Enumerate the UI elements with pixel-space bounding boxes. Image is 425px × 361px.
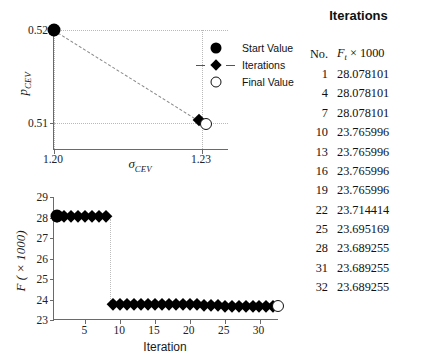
table-row: 3123.689255 (296, 259, 389, 278)
cell-no: 13 (296, 142, 337, 161)
legend-label-iterations: Iterations (242, 57, 285, 74)
cell-no: 7 (296, 104, 337, 123)
cell-value: 23.714414 (337, 200, 389, 219)
bottom-chart-plot-area (53, 197, 278, 320)
legend-label-start-value: Start Value (242, 40, 293, 57)
tick-y-23 (50, 320, 54, 321)
cell-no: 31 (296, 259, 337, 278)
header-value-rest: × 1000 (347, 46, 385, 60)
open-circle-icon (196, 74, 236, 91)
bottom-yticklabel-24: 24 (10, 294, 48, 306)
table-row: 1323.765996 (296, 142, 389, 161)
bottom-xticklabel-30: 30 (253, 324, 265, 336)
cell-no: 1 (296, 65, 337, 84)
cell-no: 19 (296, 181, 337, 200)
table-row: 3223.689255 (296, 278, 389, 297)
table-row: 728.078101 (296, 104, 389, 123)
bottom-yticklabel-28: 28 (10, 212, 48, 224)
table-header-row: No. Ft × 1000 (296, 44, 389, 65)
top-xticklabel-120: 1.20 (43, 153, 63, 165)
top-ylabel-sub: CEV (23, 72, 33, 89)
bottom-xticklabel-25: 25 (218, 324, 230, 336)
cell-value: 28.078101 (337, 84, 389, 103)
column-header-value: Ft × 1000 (337, 44, 389, 65)
table-title: Iterations (292, 8, 425, 23)
top-chart-xlabel: σCEV (128, 156, 151, 174)
table-row: 2223.714414 (296, 200, 389, 219)
iteration-path-line (53, 30, 202, 124)
cell-no: 4 (296, 84, 337, 103)
cell-no: 25 (296, 220, 337, 239)
cell-value: 23.765996 (337, 181, 389, 200)
filled-circle-icon (196, 40, 236, 57)
header-value-main: F (337, 46, 345, 60)
cell-value: 23.765996 (337, 162, 389, 181)
top-yticklabel-051: 0.51 (8, 117, 48, 129)
cell-no: 22 (296, 200, 337, 219)
final-value-marker (200, 118, 212, 130)
bottom-series-markers (54, 197, 278, 319)
start-value-marker (51, 209, 64, 222)
figure-root: pCEV 0.52 0.51 1.20 1.23 σCE (0, 0, 425, 361)
iterations-table-panel: Iterations No. Ft × 1000 128.078101428.0… (292, 0, 425, 361)
table-row: 2523.695169 (296, 220, 389, 239)
bottom-xticklabel-10: 10 (113, 324, 125, 336)
cell-value: 28.078101 (337, 65, 389, 84)
objective-convergence-chart: F ( × 1000) 29 28 27 26 25 (0, 175, 290, 361)
bottom-xticklabel-15: 15 (148, 324, 160, 336)
bottom-chart-xlabel: Iteration (143, 340, 186, 354)
cell-no: 10 (296, 123, 337, 142)
cell-no: 28 (296, 239, 337, 258)
cell-value: 23.695169 (337, 220, 389, 239)
table-row: 428.078101 (296, 84, 389, 103)
bottom-yticklabel-26: 26 (10, 253, 48, 265)
iterations-table: No. Ft × 1000 128.078101428.078101728.07… (296, 44, 389, 297)
legend-label-final-value: Final Value (242, 74, 294, 91)
bottom-yticklabel-27: 27 (10, 232, 48, 244)
iteration-marker (100, 210, 112, 222)
gridline-x-120 (54, 30, 55, 149)
bottom-xticklabel-5: 5 (81, 324, 87, 336)
parameter-path-chart: pCEV 0.52 0.51 1.20 1.23 σCE (0, 0, 290, 175)
cell-no: 32 (296, 278, 337, 297)
gridline-y-052 (54, 30, 228, 31)
bottom-yticklabel-25: 25 (10, 273, 48, 285)
diamond-dashed-icon (196, 57, 236, 74)
table-body: 128.078101428.078101728.0781011023.76599… (296, 65, 389, 298)
table-row: 1023.765996 (296, 123, 389, 142)
top-chart-ylabel: pCEV (15, 54, 33, 114)
top-ylabel-main: p (15, 89, 30, 96)
table-row: 1623.765996 (296, 162, 389, 181)
bottom-xticklabel-20: 20 (183, 324, 195, 336)
top-yticklabel-052: 0.52 (8, 24, 48, 36)
table-row: 2823.689255 (296, 239, 389, 258)
table-row: 1923.765996 (296, 181, 389, 200)
table-row: 128.078101 (296, 65, 389, 84)
cell-value: 23.689255 (337, 259, 389, 278)
cell-value: 23.689255 (337, 239, 389, 258)
final-value-marker (272, 300, 284, 312)
cell-no: 16 (296, 162, 337, 181)
bottom-yticklabel-23: 23 (10, 314, 48, 326)
cell-value: 23.689255 (337, 278, 389, 297)
cell-value: 23.765996 (337, 123, 389, 142)
bottom-yticklabel-29: 29 (10, 191, 48, 203)
start-value-marker (48, 24, 61, 37)
cell-value: 28.078101 (337, 104, 389, 123)
column-header-no: No. (296, 44, 337, 65)
tick-y-051 (50, 123, 54, 124)
top-xticklabel-123: 1.23 (191, 153, 211, 165)
top-xlabel-sub: CEV (135, 164, 152, 174)
cell-value: 23.765996 (337, 142, 389, 161)
